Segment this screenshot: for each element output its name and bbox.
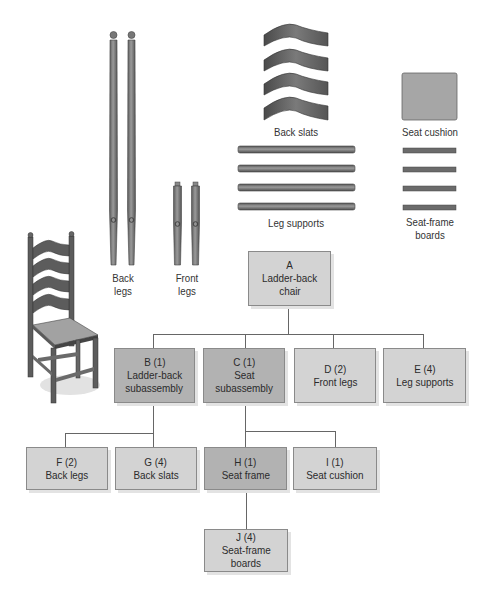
connector-c-bar (245, 431, 336, 432)
seat-frame-boards-icon (403, 148, 456, 210)
seat-frame-boards-label: Seat-frame boards (395, 216, 465, 242)
node-d-line2: Front legs (313, 376, 357, 389)
front-leg-icon (174, 182, 182, 265)
node-a-line2: Ladder-back (262, 272, 317, 285)
node-h-line2: Seat frame (221, 469, 269, 482)
node-j-id: J (4) (236, 531, 256, 544)
node-a-line3: chair (279, 285, 300, 298)
node-h-id: H (1) (234, 456, 256, 469)
node-c-id: C (1) (233, 356, 255, 369)
seat-frame-boards-label-line2: boards (395, 229, 465, 242)
node-f-id: F (2) (57, 456, 78, 469)
node-j-seat-frame-boards: J (4) Seat-frame boards (204, 529, 288, 572)
node-c-line3: subassembly (215, 382, 273, 395)
node-g-id: G (4) (145, 456, 168, 469)
seat-cushion-label: Seat cushion (395, 126, 465, 139)
front-legs-label-line1: Front (169, 272, 206, 285)
node-h-seat-frame: H (1) Seat frame (204, 447, 287, 490)
connector-to-i (335, 431, 336, 447)
front-leg-icon (192, 182, 200, 265)
front-legs-label: Front legs (169, 272, 206, 298)
leg-supports-label: Leg supports (261, 217, 331, 230)
node-c-seat-subassembly: C (1) Seat subassembly (203, 348, 285, 403)
node-g-line2: Back slats (133, 469, 178, 482)
connector-a-down (288, 306, 289, 334)
node-b-ladder-back-subassembly: B (1) Ladder-back subassembly (114, 348, 195, 403)
connector-c-down (245, 403, 246, 447)
connector-to-f (65, 433, 66, 447)
node-a-ladder-back-chair: A Ladder-back chair (248, 251, 331, 306)
front-legs-label-line2: legs (169, 285, 206, 298)
leg-supports-icon (238, 146, 355, 210)
node-d-front-legs: D (2) Front legs (294, 348, 376, 403)
node-b-id: B (1) (144, 356, 165, 369)
connector-b-down (153, 403, 154, 447)
node-e-id: E (4) (414, 363, 435, 376)
node-e-leg-supports: E (4) Leg supports (383, 348, 466, 403)
back-slats-icon (264, 24, 328, 120)
connector-to-d (333, 334, 334, 348)
back-leg-icon (128, 32, 136, 266)
back-slats-label: Back slats (261, 126, 331, 139)
node-j-line2: Seat-frame (222, 544, 271, 557)
connector-level1-bar (153, 334, 424, 335)
node-j-line3: boards (231, 557, 261, 570)
node-f-back-legs: F (2) Back legs (26, 447, 108, 490)
node-g-back-slats: G (4) Back slats (115, 447, 197, 490)
node-b-line2: Ladder-back (127, 369, 182, 382)
node-i-line2: Seat cushion (306, 469, 363, 482)
node-i-seat-cushion: I (1) Seat cushion (293, 447, 377, 490)
node-e-line2: Leg supports (396, 376, 453, 389)
node-i-id: I (1) (326, 456, 344, 469)
connector-to-b (153, 334, 154, 348)
connector-h-down (246, 490, 247, 529)
node-c-line2: Seat (234, 369, 254, 382)
node-a-id: A (286, 259, 293, 272)
seat-cushion-icon (402, 73, 457, 120)
node-d-id: D (2) (324, 363, 346, 376)
connector-b-bar (65, 433, 154, 434)
seat-frame-boards-label-line1: Seat-frame (395, 216, 465, 229)
ladder-back-chair-icon (0, 0, 120, 420)
node-b-line3: subassembly (126, 382, 184, 395)
connector-to-c (245, 334, 246, 348)
node-f-line2: Back legs (46, 469, 89, 482)
connector-to-e (423, 334, 424, 348)
